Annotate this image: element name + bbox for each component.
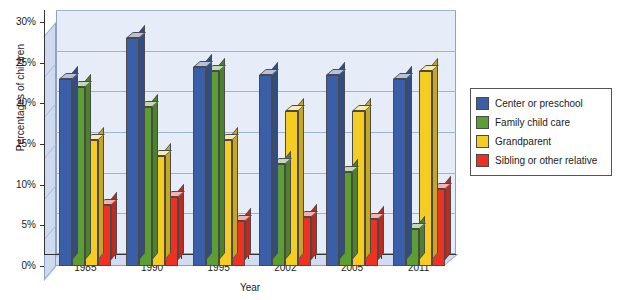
legend: Center or preschoolFamily child careGran…: [470, 88, 612, 176]
bar-side: [72, 66, 78, 260]
legend-item[interactable]: Center or preschool: [476, 94, 607, 113]
bar-face: [259, 75, 272, 266]
legend-swatch: [476, 116, 489, 129]
legend-swatch: [476, 97, 489, 110]
bar: [59, 79, 72, 266]
bar-side: [98, 127, 104, 260]
y-axis-tick-mark: [40, 103, 44, 104]
bar-side: [298, 98, 304, 260]
y-axis-tick-mark: [40, 144, 44, 145]
y-axis-tick-label: 10%: [2, 179, 36, 190]
bar: [326, 75, 339, 266]
legend-label: Family child care: [495, 117, 570, 128]
bar-side: [432, 58, 438, 260]
bar-side: [85, 74, 91, 260]
chart-container: Percentages of children Year 0%5%10%15%2…: [0, 0, 618, 300]
bar-side: [339, 62, 345, 260]
bar-side: [152, 94, 158, 260]
bar-group: [59, 22, 111, 266]
legend-label: Sibling or other relative: [495, 155, 597, 166]
bar-face: [393, 79, 406, 266]
bar-side: [219, 58, 225, 260]
bar-group: [259, 22, 311, 266]
bar-side: [365, 98, 371, 260]
y-axis-tick-label: 30%: [2, 16, 36, 27]
bar-face: [193, 67, 206, 266]
bar-group: [393, 22, 445, 266]
bar-group: [326, 22, 378, 266]
y-axis-tick-label: 25%: [2, 57, 36, 68]
plot-area: [44, 10, 456, 266]
x-axis-title: Year: [140, 282, 360, 293]
bar-group: [193, 22, 245, 266]
bar-side: [352, 159, 358, 260]
bar: [126, 38, 139, 266]
y-axis-tick-label: 5%: [2, 219, 36, 230]
bar-side: [232, 127, 238, 260]
bar-face: [126, 38, 139, 266]
y-axis-tick-label: 20%: [2, 97, 36, 108]
legend-swatch: [476, 135, 489, 148]
bar-side: [406, 66, 412, 260]
y-axis-tick-mark: [40, 22, 44, 23]
bar-group: [126, 22, 178, 266]
legend-label: Grandparent: [495, 136, 551, 147]
bar-face: [59, 79, 72, 266]
bar: [259, 75, 272, 266]
legend-item[interactable]: Sibling or other relative: [476, 151, 607, 170]
y-axis-tick-mark: [40, 225, 44, 226]
legend-item[interactable]: Family child care: [476, 113, 607, 132]
bar: [193, 67, 206, 266]
y-axis-tick-mark: [40, 266, 44, 267]
y-axis-tick-mark: [40, 63, 44, 64]
y-axis-tick-mark: [40, 185, 44, 186]
legend-label: Center or preschool: [495, 98, 583, 109]
bar-side: [285, 151, 291, 260]
bar-side: [206, 54, 212, 260]
bar-side: [165, 143, 171, 260]
gridline: [56, 10, 456, 11]
y-axis-tick-label: 0%: [2, 260, 36, 271]
legend-swatch: [476, 154, 489, 167]
y-axis-tick-label: 15%: [2, 138, 36, 149]
bar: [393, 79, 406, 266]
legend-item[interactable]: Grandparent: [476, 132, 607, 151]
bar-face: [326, 75, 339, 266]
bar-side: [139, 25, 145, 260]
y-axis-line: [44, 10, 45, 254]
bar-side: [272, 62, 278, 260]
